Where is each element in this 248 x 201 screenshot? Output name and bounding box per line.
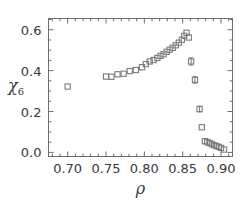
- scatter-plot: 0.700.750.800.850.900.00.20.40.6ρχ6: [0, 0, 248, 201]
- data-point-marker: [109, 74, 114, 79]
- data-point-marker: [151, 57, 156, 62]
- data-point-marker: [121, 71, 126, 76]
- x-tick-label: 0.90: [207, 161, 236, 176]
- x-tick-label: 0.80: [130, 161, 159, 176]
- x-tick-label: 0.70: [53, 161, 82, 176]
- x-tick-label: 0.75: [92, 161, 121, 176]
- y-tick-label: 0.4: [21, 64, 42, 79]
- plot-frame: [49, 19, 233, 157]
- data-point-marker: [199, 125, 204, 130]
- y-tick-label: 0.0: [21, 145, 42, 160]
- figure-container: 0.700.750.800.850.900.00.20.40.6ρχ6: [0, 0, 248, 201]
- data-point-marker: [127, 68, 132, 73]
- svg-text:χ6: χ6: [7, 76, 24, 97]
- y-tick-label: 0.2: [21, 105, 42, 120]
- data-point-marker: [103, 74, 108, 79]
- y-tick-label: 0.6: [21, 23, 42, 38]
- y-axis-label: χ6: [7, 76, 24, 97]
- data-point-marker: [133, 67, 138, 72]
- x-tick-label: 0.85: [168, 161, 197, 176]
- data-point-marker: [65, 84, 70, 89]
- x-axis-label: ρ: [135, 179, 146, 198]
- data-point-marker: [115, 72, 120, 77]
